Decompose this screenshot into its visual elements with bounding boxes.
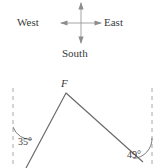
left-angle-label: 35° — [18, 137, 32, 147]
arrow-west-icon — [60, 20, 68, 25]
bearing-path — [26, 93, 143, 168]
apex-vertex-label: F — [61, 78, 68, 89]
right-angle-label: 49° — [127, 150, 141, 160]
bearing-diagram-figure: West East South F 35° 49° — [0, 0, 161, 168]
compass-label-south: South — [62, 48, 88, 59]
arrow-north-icon — [78, 2, 83, 10]
arrow-south-icon — [78, 37, 83, 45]
compass-label-east: East — [104, 17, 123, 28]
compass-label-west: West — [17, 17, 39, 28]
arrow-east-icon — [95, 20, 103, 25]
